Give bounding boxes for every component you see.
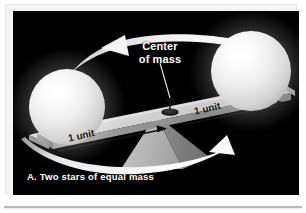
figure-panel: Center of mass 1 unit 1 unit A. Two star… — [13, 11, 299, 195]
star-right-body — [211, 31, 291, 111]
bottom-divider-highlight — [4, 208, 302, 209]
center-of-mass-line-2: of mass — [117, 53, 203, 66]
star-left — [23, 63, 111, 151]
diagram-scene: Center of mass 1 unit 1 unit A. Two star… — [13, 11, 299, 195]
center-of-mass-line-1: Center — [117, 40, 203, 53]
center-of-mass-label: Center of mass — [117, 40, 203, 65]
figure-frame: Center of mass 1 unit 1 unit A. Two star… — [5, 4, 297, 194]
center-of-mass-leader-line — [160, 63, 170, 98]
figure-page: Center of mass 1 unit 1 unit A. Two star… — [0, 0, 306, 213]
figure-caption: A. Two stars of equal mass — [27, 171, 154, 182]
